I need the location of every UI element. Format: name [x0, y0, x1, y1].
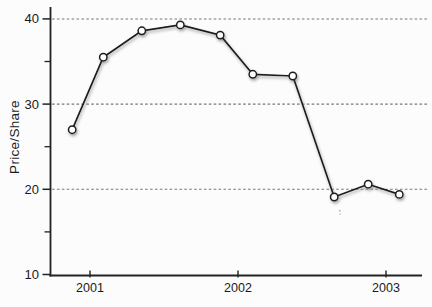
grid-layer — [52, 19, 428, 189]
y-axis-label: Price/Share — [7, 100, 22, 174]
data-point-marker — [249, 71, 256, 78]
data-point-marker — [138, 27, 145, 34]
price-share-chart-figure: Price/Share 10203040200120022003 — [0, 0, 432, 307]
axes-layer — [43, 7, 423, 278]
data-point-marker — [100, 54, 107, 61]
data-point-marker — [69, 126, 76, 133]
data-point-marker — [177, 21, 184, 28]
data-point-marker — [331, 193, 338, 200]
labels-layer: 10203040200120022003 — [25, 11, 400, 295]
data-point-marker — [365, 181, 372, 188]
y-tick-label-30: 30 — [25, 97, 39, 112]
data-point-marker — [289, 72, 296, 79]
x-tick-label-2003: 2003 — [372, 281, 400, 295]
series-layer — [69, 21, 403, 201]
x-tick-label-2002: 2002 — [224, 281, 252, 295]
price-share-line-chart: 10203040200120022003 — [0, 0, 432, 307]
y-tick-label-10: 10 — [25, 267, 39, 282]
data-point-marker — [217, 31, 224, 38]
scan-artifact — [339, 210, 341, 215]
series-line-price-per-share — [72, 25, 399, 197]
x-tick-label-2001: 2001 — [76, 281, 104, 295]
y-tick-label-40: 40 — [25, 11, 39, 26]
data-point-marker — [396, 191, 403, 198]
y-tick-label-20: 20 — [25, 182, 39, 197]
